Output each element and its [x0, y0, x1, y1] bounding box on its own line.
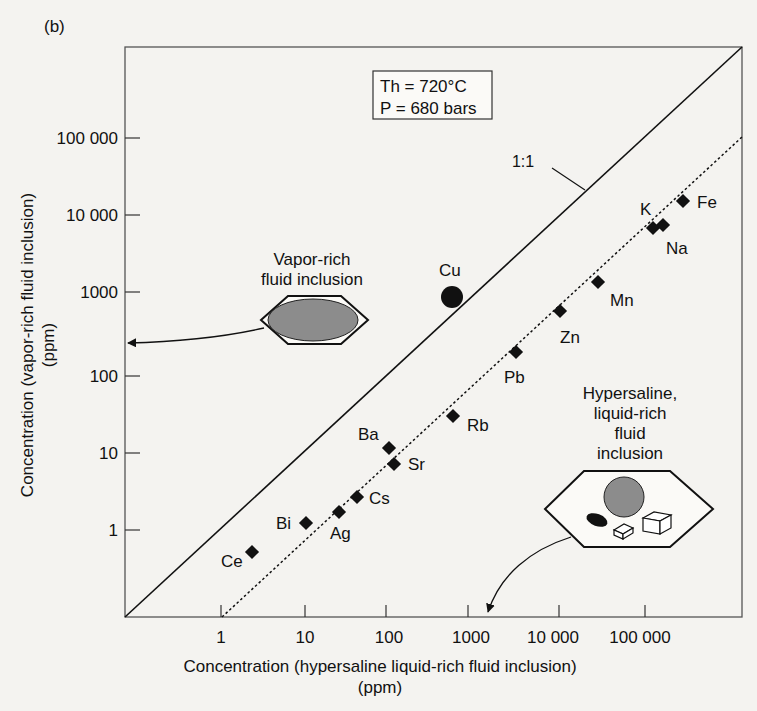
hypersaline-label-2: liquid-rich [594, 404, 667, 423]
y-tick-labels: 1 10 100 1000 10 000 100 000 [57, 129, 118, 540]
label-bi: Bi [276, 514, 291, 533]
vapor-arrow [128, 328, 264, 343]
x-axis-units: (ppm) [358, 678, 402, 697]
label-k: K [640, 200, 652, 219]
label-zn: Zn [560, 328, 580, 347]
hypersaline-label-3: fluid [614, 424, 645, 443]
hypersaline-arrow [488, 537, 571, 612]
hypersaline-bubble [604, 477, 644, 517]
conditions-box: Th = 720°C P = 680 bars [373, 71, 492, 119]
hypersaline-inclusion-illustration: Hypersaline, liquid-rich fluid inclusion [488, 384, 713, 612]
x-tick-label: 1 [216, 628, 225, 647]
label-ce: Ce [221, 552, 243, 571]
hypersaline-label-4: inclusion [597, 444, 663, 463]
label-ag: Ag [330, 524, 351, 543]
label-sr: Sr [408, 455, 425, 474]
data-point-ce [245, 545, 259, 559]
data-point-cs [350, 490, 364, 504]
label-fe: Fe [697, 193, 717, 212]
one-to-one-leader [552, 168, 585, 190]
temperature-label: Th = 720°C [380, 77, 467, 96]
data-point-pb [509, 345, 523, 359]
label-rb: Rb [467, 416, 489, 435]
x-axis-title: Concentration (hypersaline liquid-rich f… [183, 657, 576, 676]
label-ba: Ba [358, 425, 379, 444]
data-point-zn [553, 304, 567, 318]
x-tick-labels: 1 10 100 1000 10 000 100 000 [216, 628, 670, 647]
data-point-mn [591, 275, 605, 289]
data-point-ag [332, 505, 346, 519]
label-cu: Cu [439, 261, 461, 280]
vapor-inclusion-label-2: fluid inclusion [261, 270, 363, 289]
y-axis-title: Concentration (vapor-rich fluid inclusio… [18, 193, 37, 497]
y-axis-units: (ppm) [39, 323, 58, 367]
y-tick-label: 10 [99, 444, 118, 463]
x-tick-label: 1000 [452, 628, 490, 647]
y-tick-label: 100 [90, 367, 118, 386]
y-tick-label: 1000 [80, 283, 118, 302]
x-tick-label: 100 000 [609, 628, 670, 647]
chart: (b) 1 10 100 1000 10 000 100 000 1 10 10… [0, 0, 757, 711]
label-na: Na [666, 239, 688, 258]
hypersaline-label-1: Hypersaline, [583, 384, 678, 403]
pressure-label: P = 680 bars [380, 99, 477, 118]
one-to-one-label: 1:1 [512, 153, 534, 170]
data-point-cu [441, 286, 463, 308]
vapor-bubble [268, 299, 358, 341]
x-axis [221, 605, 645, 617]
x-tick-label: 10 [296, 628, 315, 647]
y-axis [125, 138, 140, 530]
vapor-inclusion-label-1: Vapor-rich [273, 250, 350, 269]
data-point-rb [446, 409, 460, 423]
label-cs: Cs [369, 489, 390, 508]
y-tick-label: 100 000 [57, 129, 118, 148]
halite-cube [643, 512, 671, 534]
label-pb: Pb [504, 368, 525, 387]
panel-label: (b) [44, 17, 65, 36]
data-point-sr [387, 457, 401, 471]
x-tick-label: 100 [375, 628, 403, 647]
y-tick-label: 10 000 [66, 206, 118, 225]
vapor-inclusion-illustration: Vapor-rich fluid inclusion [128, 250, 368, 344]
data-point-bi [299, 516, 313, 530]
label-mn: Mn [610, 291, 634, 310]
y-tick-label: 1 [109, 521, 118, 540]
x-tick-label: 10 000 [527, 628, 579, 647]
data-point-ba [382, 441, 396, 455]
